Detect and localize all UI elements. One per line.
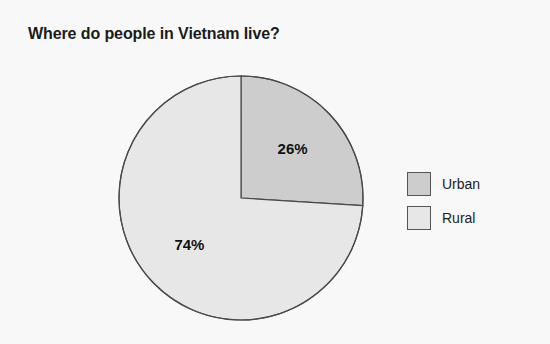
legend-item-rural[interactable]: Rural bbox=[407, 206, 480, 230]
legend-swatch-urban bbox=[407, 172, 431, 196]
pie-slice-label-rural: 74% bbox=[174, 236, 204, 253]
pie-slices bbox=[119, 76, 363, 320]
legend-swatch-rural bbox=[407, 206, 431, 230]
pie-slice-label-urban: 26% bbox=[278, 140, 308, 157]
pie-chart-figure: Where do people in Vietnam live? 26% 74%… bbox=[0, 0, 550, 344]
legend-item-urban[interactable]: Urban bbox=[407, 172, 480, 196]
chart-legend: Urban Rural bbox=[407, 172, 480, 230]
legend-label-urban: Urban bbox=[442, 176, 480, 192]
legend-label-rural: Rural bbox=[442, 210, 475, 226]
